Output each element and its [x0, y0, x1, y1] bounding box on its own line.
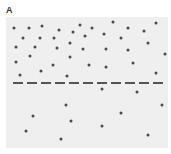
dot-above-threshold [120, 37, 123, 40]
panel-label: A [6, 5, 13, 15]
dot-above-threshold [155, 72, 158, 75]
dot-above-threshold [58, 29, 61, 32]
threshold-dash [139, 82, 149, 84]
threshold-dash [125, 82, 135, 84]
dot-above-threshold [105, 66, 108, 69]
dot-above-threshold [39, 37, 42, 40]
dot-above-threshold [53, 37, 56, 40]
dot-above-threshold [66, 75, 69, 78]
dot-above-threshold [15, 61, 18, 64]
dot-below-threshold [60, 138, 63, 141]
dot-above-threshold [164, 53, 167, 56]
dot-above-threshold [82, 48, 85, 51]
dot-above-threshold [29, 55, 32, 58]
dot-below-threshold [136, 91, 139, 94]
dot-above-threshold [52, 64, 55, 67]
dot-above-threshold [147, 42, 150, 45]
dot-above-threshold [112, 21, 115, 24]
dot-below-threshold [65, 104, 68, 107]
dot-above-threshold [88, 64, 91, 67]
dot-above-threshold [103, 33, 106, 36]
threshold-dash [111, 82, 121, 84]
dot-below-threshold [70, 120, 73, 123]
dot-above-threshold [69, 42, 72, 45]
threshold-dash [153, 82, 163, 84]
dot-above-threshold [41, 25, 44, 28]
dot-below-threshold [32, 115, 35, 118]
dot-above-threshold [19, 74, 22, 77]
dot-above-threshold [127, 27, 130, 30]
dot-above-threshold [155, 22, 158, 25]
dot-above-threshold [91, 27, 94, 30]
threshold-dash [55, 82, 65, 84]
dot-above-threshold [72, 31, 75, 34]
dot-below-threshold [101, 125, 104, 128]
dot-above-threshold [69, 56, 72, 59]
threshold-dash [13, 82, 23, 84]
dot-above-threshold [127, 49, 130, 52]
dot-above-threshold [132, 62, 135, 65]
dot-below-threshold [161, 104, 164, 107]
dot-above-threshold [34, 46, 37, 49]
dot-below-threshold [147, 134, 150, 137]
dot-above-threshold [105, 48, 108, 51]
threshold-dash [69, 82, 79, 84]
dot-above-threshold [84, 35, 87, 38]
dot-above-threshold [22, 37, 25, 40]
dot-above-threshold [143, 30, 146, 33]
dot-above-threshold [40, 70, 43, 73]
dot-below-threshold [120, 112, 123, 115]
dot-above-threshold [15, 46, 18, 49]
dot-above-threshold [13, 27, 16, 30]
dot-below-threshold [101, 88, 104, 91]
dot-above-threshold [56, 47, 59, 50]
dot-below-threshold [25, 130, 28, 133]
threshold-dash [83, 82, 93, 84]
dot-above-threshold [79, 24, 82, 27]
threshold-dash [41, 82, 51, 84]
threshold-dash [97, 82, 107, 84]
dot-above-threshold [28, 27, 31, 30]
threshold-dash [27, 82, 37, 84]
